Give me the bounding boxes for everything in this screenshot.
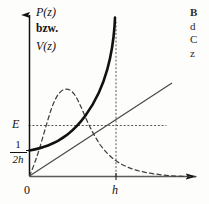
y-axis-label-line3: V(z) <box>36 40 56 52</box>
x-tick-label-h: h <box>112 184 118 196</box>
y-axis-label-line2: bzw. <box>36 23 58 35</box>
margin-text-column: B d C z <box>190 6 209 60</box>
margin-text-line2: d <box>190 20 209 34</box>
physics-plot-figure: P(z) bzw. V(z) E 1 2h 0 h B d C z <box>0 0 209 204</box>
half-h-fraction-label: 1 2h <box>8 139 28 165</box>
y-axis-label-line1: P(z) <box>36 6 56 18</box>
probability-density-curve <box>30 89 197 176</box>
linear-reference-curve <box>30 83 173 176</box>
origin-label: 0 <box>24 184 30 196</box>
energy-level-label: E <box>12 118 19 130</box>
plot-canvas <box>0 0 209 204</box>
margin-text-line4: z <box>190 47 209 61</box>
margin-text-line1: B <box>190 6 209 20</box>
fraction-numerator: 1 <box>8 139 28 152</box>
fraction-denominator: 2h <box>8 153 28 166</box>
potential-curve <box>30 18 116 151</box>
margin-text-line3: C <box>190 33 209 47</box>
